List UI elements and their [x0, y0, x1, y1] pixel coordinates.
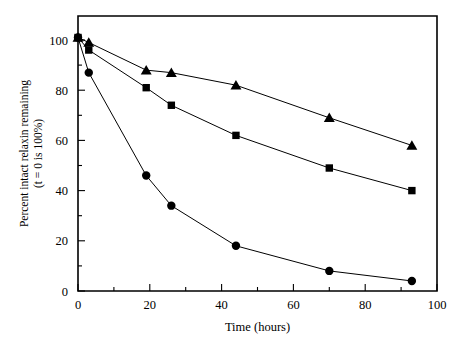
- x-tick-label: 60: [287, 298, 300, 312]
- y-tick-label: 80: [56, 84, 69, 98]
- series-circle: [74, 33, 416, 285]
- series-triangle: [73, 32, 418, 149]
- circle-marker: [325, 267, 333, 275]
- x-tick-label: 20: [144, 298, 157, 312]
- y-axis-ticks: [78, 40, 85, 291]
- circle-marker: [74, 33, 82, 41]
- y-tick-label: 100: [49, 34, 68, 48]
- y-tick-label: 20: [56, 234, 69, 248]
- triangle-marker: [141, 65, 152, 74]
- circle-marker: [85, 68, 93, 76]
- y-tick-label: 0: [62, 285, 68, 299]
- chart-container: 020406080100 020406080100 Time (hours) P…: [0, 0, 460, 356]
- circle-marker: [232, 242, 240, 250]
- square-marker: [143, 84, 150, 91]
- x-tick-label: 100: [428, 298, 447, 312]
- y-tick-label: 60: [56, 134, 69, 148]
- series-square: [74, 34, 415, 195]
- chart-svg: 020406080100 020406080100 Time (hours) P…: [0, 0, 460, 356]
- y-axis-tick-labels: 020406080100: [49, 34, 68, 299]
- series-line-triangle: [78, 37, 412, 145]
- square-marker: [326, 164, 333, 171]
- x-axis-ticks: [78, 284, 437, 291]
- x-tick-label: 0: [75, 298, 81, 312]
- circle-marker: [142, 171, 150, 179]
- circle-marker: [408, 277, 416, 285]
- x-tick-label: 40: [215, 298, 228, 312]
- x-tick-label: 80: [359, 298, 372, 312]
- series-line-square: [78, 37, 412, 190]
- y-axis-title-line2: (t = 0 is 100%): [32, 119, 45, 188]
- data-series-layer: [73, 32, 418, 285]
- series-line-circle: [78, 37, 412, 280]
- y-axis-title-line1: Percent intact relaxin remaining: [18, 80, 31, 227]
- square-marker: [168, 102, 175, 109]
- triangle-marker: [406, 140, 417, 149]
- square-marker: [232, 132, 239, 139]
- x-axis-title: Time (hours): [225, 320, 290, 334]
- square-marker: [85, 46, 92, 53]
- triangle-marker: [324, 113, 335, 122]
- x-axis-tick-labels: 020406080100: [75, 298, 447, 312]
- axis-frame: [78, 16, 437, 291]
- plot-frame: [78, 16, 437, 291]
- y-tick-label: 40: [56, 184, 69, 198]
- square-marker: [408, 187, 415, 194]
- circle-marker: [167, 201, 175, 209]
